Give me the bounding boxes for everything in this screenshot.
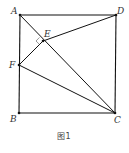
label-A: A	[10, 6, 18, 16]
label-C: C	[114, 115, 121, 125]
segment-FC	[19, 65, 115, 113]
label-E: E	[43, 29, 51, 39]
label-F: F	[8, 60, 16, 70]
diagonal-AC	[20, 15, 115, 113]
label-D: D	[116, 6, 124, 16]
figure-caption: 图1	[57, 132, 70, 141]
right-angle-mark	[36, 37, 40, 44]
segment-DC	[115, 15, 116, 113]
geometry-figure: A D B C E F 图1	[0, 0, 129, 153]
label-B: B	[9, 114, 17, 124]
segment-DE	[43, 15, 116, 41]
